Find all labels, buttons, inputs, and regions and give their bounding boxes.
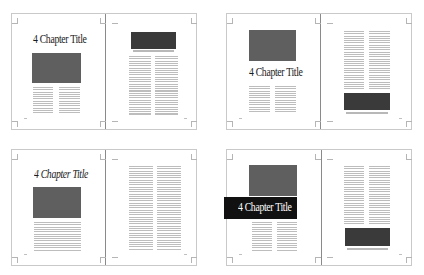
image-placeholder xyxy=(249,30,296,61)
chapter-title: 4 Chapter Title xyxy=(249,66,303,78)
crop-mark xyxy=(191,121,197,122)
crop-mark xyxy=(327,159,333,160)
gutter xyxy=(105,150,106,265)
crop-mark xyxy=(100,121,106,122)
text-column xyxy=(252,222,272,251)
crop-mark xyxy=(227,257,233,258)
crop-mark xyxy=(315,257,321,258)
text-column xyxy=(129,166,153,251)
crop-mark xyxy=(406,257,412,258)
text-column xyxy=(369,31,390,89)
crop-mark xyxy=(191,23,197,24)
folio xyxy=(184,254,187,255)
image-placeholder xyxy=(249,165,297,196)
caption-rule xyxy=(347,248,388,250)
crop-mark xyxy=(191,257,197,258)
crop-mark xyxy=(112,159,118,160)
text-column xyxy=(275,86,296,114)
folio xyxy=(24,118,27,119)
crop-mark xyxy=(327,121,333,122)
folio xyxy=(24,254,27,255)
spread-4: 4 Chapter Title xyxy=(226,149,412,266)
text-column xyxy=(249,86,270,114)
spread-3: 4 Chapter Title xyxy=(11,149,197,266)
text-column xyxy=(59,87,80,114)
caption-rule xyxy=(346,112,388,114)
crop-mark xyxy=(12,257,18,258)
text-column xyxy=(129,56,151,116)
text-column xyxy=(155,56,178,116)
gutter xyxy=(320,14,321,129)
folio xyxy=(239,254,242,255)
text-column xyxy=(34,222,81,252)
crop-mark xyxy=(191,159,197,160)
text-column xyxy=(344,31,364,89)
folio xyxy=(184,118,187,119)
gutter xyxy=(321,150,322,265)
crop-mark xyxy=(227,23,233,24)
crop-mark xyxy=(406,159,412,160)
folio xyxy=(399,254,402,255)
crop-mark xyxy=(100,23,106,24)
dark-image-block xyxy=(345,228,390,246)
crop-mark xyxy=(227,159,233,160)
spread-2: 4 Chapter Title xyxy=(226,13,412,130)
dark-image-block xyxy=(131,32,176,49)
crop-mark xyxy=(327,257,333,258)
text-column xyxy=(277,222,297,251)
crop-mark xyxy=(406,23,412,24)
caption-rule xyxy=(133,50,174,52)
image-placeholder xyxy=(33,187,81,218)
folio xyxy=(239,118,242,119)
text-column xyxy=(344,166,364,224)
crop-mark xyxy=(112,257,118,258)
text-column xyxy=(33,87,53,114)
crop-mark xyxy=(227,121,233,122)
title-band: 4 Chapter Title xyxy=(224,197,297,219)
spread-1: 4 Chapter Title xyxy=(11,13,197,130)
crop-mark xyxy=(112,121,118,122)
crop-mark xyxy=(100,257,106,258)
gutter xyxy=(105,14,106,129)
text-column xyxy=(369,166,390,224)
crop-mark xyxy=(327,23,333,24)
crop-mark xyxy=(112,23,118,24)
chapter-title: 4 Chapter Title xyxy=(33,33,87,45)
crop-mark xyxy=(12,159,18,160)
crop-mark xyxy=(315,159,321,160)
chapter-title: 4 Chapter Title xyxy=(238,201,292,213)
chapter-title: 4 Chapter Title xyxy=(34,168,88,180)
folio xyxy=(399,118,402,119)
image-placeholder xyxy=(32,53,81,83)
crop-mark xyxy=(406,121,412,122)
crop-mark xyxy=(315,23,321,24)
crop-mark xyxy=(12,121,18,122)
dark-image-block xyxy=(344,93,390,110)
crop-mark xyxy=(12,23,18,24)
text-column xyxy=(157,166,181,251)
crop-mark xyxy=(100,159,106,160)
crop-mark xyxy=(315,121,321,122)
